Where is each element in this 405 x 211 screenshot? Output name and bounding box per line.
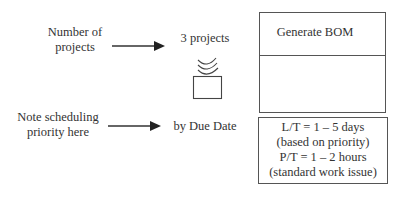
- annotation-scheduling-priority: Note scheduling priority here: [8, 110, 108, 140]
- data-box: L/T = 1 – 5 days (based on priority) P/T…: [258, 117, 388, 184]
- lead-time-note: (based on priority): [259, 135, 387, 150]
- inbox-queue-icon: [194, 58, 222, 99]
- process-title: Generate BOM: [260, 25, 370, 40]
- data-box-text: L/T = 1 – 5 days (based on priority) P/T…: [259, 120, 387, 180]
- annotation-line: projects: [20, 40, 130, 55]
- lead-time: L/T = 1 – 5 days: [259, 120, 387, 135]
- priority-value: by Due Date: [165, 119, 245, 134]
- process-time: P/T = 1 – 2 hours: [259, 150, 387, 165]
- arrow-right-icon: [108, 121, 161, 131]
- process-box-divider: [260, 55, 385, 56]
- process-box: Generate BOM: [259, 12, 386, 113]
- process-time-note: (standard work issue): [259, 165, 387, 180]
- project-count-value: 3 projects: [165, 31, 245, 46]
- annotation-number-of-projects: Number of projects: [20, 25, 130, 55]
- annotation-line: Note scheduling: [8, 110, 108, 125]
- annotation-line: Number of: [20, 25, 130, 40]
- annotation-line: priority here: [8, 125, 108, 140]
